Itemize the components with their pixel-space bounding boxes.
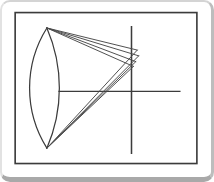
scanned-figure-card [0, 0, 214, 182]
mirror-right-arc [47, 28, 59, 148]
mirror-left-arc [30, 28, 47, 148]
ray-from-top-edge [47, 28, 139, 56]
ray-from-top-edge [47, 28, 134, 66]
ray-from-top-edge [47, 28, 136, 62]
ray-from-top-edge [47, 28, 137, 50]
ray-from-bottom-edge [47, 66, 134, 148]
screenshot-stage [0, 0, 214, 182]
optics-ray-diagram [2, 2, 211, 177]
ray-from-bottom-edge [47, 50, 137, 148]
